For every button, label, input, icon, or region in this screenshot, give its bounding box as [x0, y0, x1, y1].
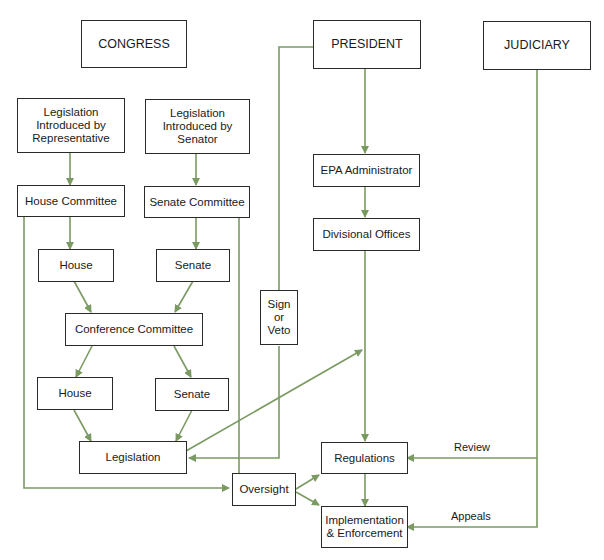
senate-box-1: Senate — [156, 249, 230, 282]
review-label: Review — [454, 441, 490, 453]
house-box-1: House — [38, 249, 114, 282]
judiciary-box: JUDICIARY — [483, 21, 591, 70]
congress-box: CONGRESS — [81, 20, 187, 68]
divisional-offices-box: Divisional Offices — [313, 218, 420, 251]
legislation-introduced-by-representative-box: Legislation Introduced by Representative — [17, 98, 125, 153]
epa-administrator-box: EPA Administrator — [313, 154, 420, 187]
house-box-2: House — [37, 377, 113, 410]
conference-committee-box: Conference Committee — [65, 313, 203, 346]
house-committee-box: House Committee — [17, 185, 125, 217]
legislation-box: Legislation — [79, 441, 187, 474]
president-box: PRESIDENT — [313, 20, 421, 69]
regulations-box: Regulations — [321, 442, 408, 474]
appeals-label: Appeals — [451, 510, 491, 522]
epa-policy-flowchart: CONGRESS PRESIDENT JUDICIARY Legislation… — [0, 0, 604, 560]
senate-committee-box: Senate Committee — [144, 186, 250, 218]
sign-or-veto-box: Sign or Veto — [260, 290, 298, 345]
legislation-introduced-by-senator-box: Legislation Introduced by Senator — [145, 99, 250, 154]
implementation-enforcement-box: Implementation & Enforcement — [321, 506, 408, 548]
senate-box-2: Senate — [155, 378, 229, 411]
oversight-box: Oversight — [232, 473, 296, 506]
